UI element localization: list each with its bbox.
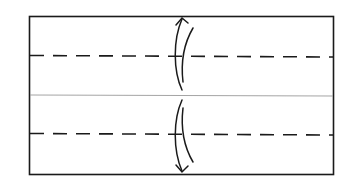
origami-diagram <box>0 0 351 193</box>
